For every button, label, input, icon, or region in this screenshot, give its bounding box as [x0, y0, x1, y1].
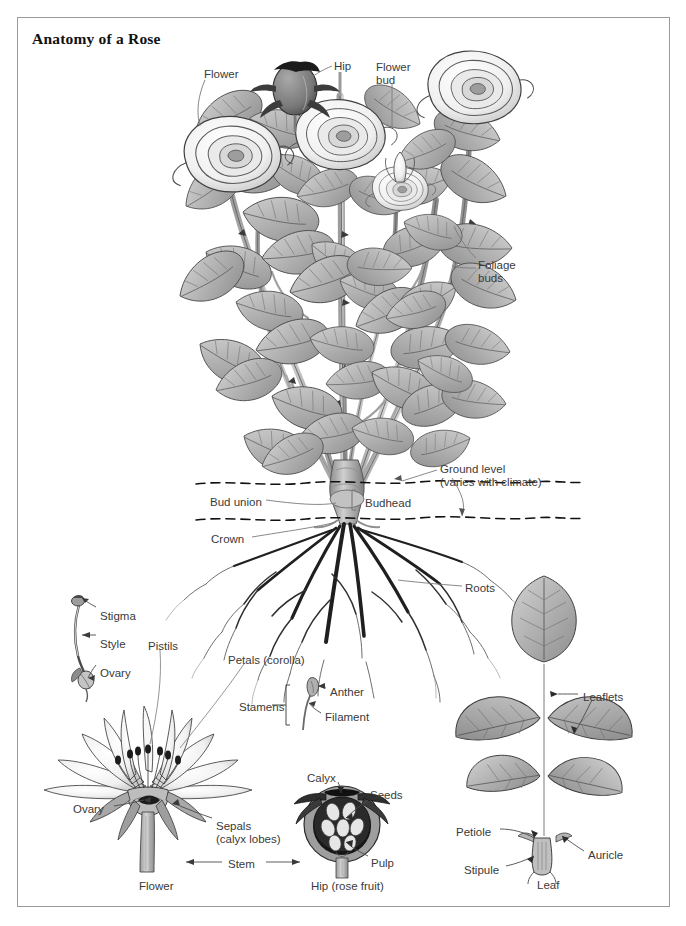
label-crown: Crown — [211, 533, 244, 546]
label-stem: Stem — [228, 858, 255, 871]
label-flower-bud: Flower bud — [376, 61, 411, 86]
label-bud-union: Bud union — [210, 496, 262, 509]
label-ovary-section: Ovary — [73, 803, 104, 816]
label-flower: Flower — [204, 68, 239, 81]
label-petals: Petals (corolla) — [228, 654, 305, 667]
label-stigma: Stigma — [100, 610, 136, 623]
diagram-page: Anatomy of a Rose — [0, 0, 686, 926]
label-hip: Hip — [334, 60, 351, 73]
caption-flower: Flower — [139, 880, 174, 892]
caption-leaf: Leaf — [537, 879, 559, 891]
diagram-frame — [17, 17, 670, 907]
label-budhead: Budhead — [365, 497, 411, 510]
label-auricle: Auricle — [588, 849, 623, 862]
label-seeds: Seeds — [370, 789, 403, 802]
label-pulp: Pulp — [371, 857, 394, 870]
label-foliage-buds: Foliage buds — [478, 259, 516, 284]
page-title: Anatomy of a Rose — [32, 30, 161, 48]
label-leaflets: Leaflets — [583, 691, 623, 704]
caption-hip: Hip (rose fruit) — [311, 880, 384, 892]
label-petiole: Petiole — [456, 826, 491, 839]
label-pistils: Pistils — [148, 640, 178, 653]
label-ground-level: Ground level (varies with climate) — [440, 463, 542, 488]
label-anther: Anther — [330, 686, 364, 699]
label-filament: Filament — [325, 711, 369, 724]
label-stipule: Stipule — [464, 864, 499, 877]
label-ovary: Ovary — [100, 667, 131, 680]
label-style: Style — [100, 638, 126, 651]
label-sepals: Sepals (calyx lobes) — [216, 820, 281, 845]
label-stamens: Stamens — [239, 701, 284, 714]
label-calyx: Calyx — [307, 772, 336, 785]
label-roots: Roots — [465, 582, 495, 595]
